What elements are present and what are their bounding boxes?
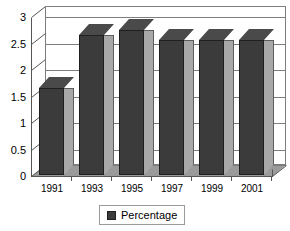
legend-label-percentage: Percentage (121, 210, 177, 221)
x-tick-label-1997: 1997 (152, 183, 192, 194)
bar-1997[interactable] (159, 40, 184, 175)
bar-side-face (144, 30, 154, 175)
bar-front-face (159, 40, 184, 175)
x-tick-label-1991: 1991 (32, 183, 72, 194)
bar-1991[interactable] (39, 88, 64, 175)
bar-chart: 3 2.5 2 1.5 1 0.5 0 (0, 0, 290, 231)
legend-swatch-percentage (107, 211, 116, 220)
x-tick-label-2001: 2001 (232, 183, 272, 194)
bar-side-face (104, 35, 114, 175)
x-tick-label-1993: 1993 (72, 183, 112, 194)
x-tick-label-1995: 1995 (112, 183, 152, 194)
bar-side-face (184, 40, 194, 175)
bar-1999[interactable] (199, 40, 224, 175)
bar-1995[interactable] (119, 30, 144, 175)
bar-front-face (79, 35, 104, 175)
bar-front-face (39, 88, 64, 175)
bar-front-face (239, 40, 264, 175)
bar-front-face (119, 30, 144, 175)
x-tick-label-1999: 1999 (192, 183, 232, 194)
bar-front-face (199, 40, 224, 175)
bar-2001[interactable] (239, 40, 264, 175)
bar-1993[interactable] (79, 35, 104, 175)
bar-side-face (64, 88, 74, 175)
chart-legend: Percentage (99, 205, 185, 225)
bar-side-face (264, 40, 274, 175)
bars-layer (0, 0, 290, 231)
bar-side-face (224, 40, 234, 175)
